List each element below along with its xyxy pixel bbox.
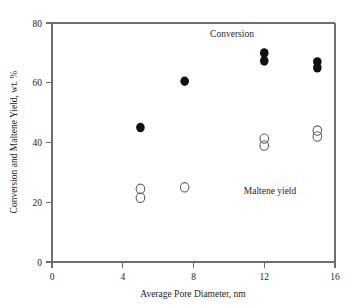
x-tick-label-12: 12 [260,272,270,282]
data-point [260,141,269,150]
y-axis-title: Conversion and Maltene Yield, wt. % [9,70,19,213]
y-tick-label-40: 40 [33,138,43,148]
data-point [313,126,322,135]
y-tick-label-0: 0 [37,258,42,268]
data-point [260,48,269,57]
x-tick-label-0: 0 [50,272,55,282]
data-point [136,193,145,202]
y-axis-ticks [46,23,52,262]
y-axis-tick-labels: 0 20 40 60 80 [33,19,43,268]
y-tick-label-60: 60 [33,78,43,88]
scatter-chart-figure: 0 20 40 60 80 0 4 8 12 16 Average Pore D… [0,0,362,307]
x-tick-label-16: 16 [330,272,340,282]
x-axis-tick-labels: 0 4 8 12 16 [50,272,340,282]
data-markers-layer [136,48,321,202]
data-point [260,56,269,65]
annotation-maltene-yield: Maltene yield [244,186,297,196]
plot-canvas: 0 20 40 60 80 0 4 8 12 16 Average Pore D… [0,0,362,307]
data-point [136,123,145,132]
y-tick-label-80: 80 [33,19,43,29]
data-point [313,63,322,72]
series-conversion [136,48,321,132]
x-tick-label-8: 8 [191,272,196,282]
data-point [180,183,189,192]
data-point [313,132,322,141]
data-point [180,77,189,86]
annotation-conversion: Conversion [210,29,254,39]
x-tick-label-4: 4 [120,272,125,282]
x-axis-ticks [52,262,335,268]
x-axis-title: Average Pore Diameter, nm [140,289,246,299]
y-tick-label-20: 20 [33,198,43,208]
axis-lines [52,23,335,262]
data-point [136,184,145,193]
